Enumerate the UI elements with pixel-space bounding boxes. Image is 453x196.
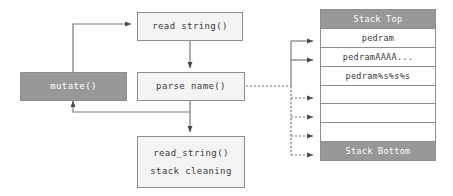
stack-row-2-label: pedramAAAA... [343, 52, 413, 62]
node-read-string-cleanup-label-secondary: stack cleaning [150, 166, 231, 176]
node-read-string-cleanup-label-primary: read_string() [153, 148, 229, 158]
node-mutate-label: mutate() [50, 81, 97, 91]
stack-row-6[interactable] [321, 123, 435, 142]
stack-row-3[interactable]: pedram%s%s%s [321, 67, 435, 86]
stack-row-4[interactable] [321, 86, 435, 105]
edge-mutate-to-read-string [73, 24, 131, 72]
stack-row-5[interactable] [321, 104, 435, 123]
stack-row-stack-top[interactable]: Stack Top [321, 10, 435, 29]
edge-parse-name-to-mutate-feedback [73, 101, 190, 112]
node-mutate[interactable]: mutate() [20, 72, 127, 101]
stack-row-1-label: pedram [362, 33, 395, 43]
stack-row-2[interactable]: pedramAAAA... [321, 48, 435, 67]
node-read-string-top[interactable]: read string() [137, 12, 243, 41]
node-read-string-top-label: read string() [152, 21, 228, 31]
node-read-string-cleanup[interactable]: read_string() stack cleaning [137, 136, 245, 188]
stack-row-stack-bottom-label: Stack Bottom [345, 146, 410, 156]
stack-row-3-label: pedram%s%s%s [345, 71, 410, 81]
stack-row-stack-bottom[interactable]: Stack Bottom [321, 142, 435, 160]
node-parse-name-label: parse name() [156, 81, 226, 91]
stack-panel: Stack Top pedram pedramAAAA... pedram%s%… [320, 9, 436, 161]
node-parse-name[interactable]: parse name() [137, 72, 245, 101]
stack-row-stack-top-label: Stack Top [354, 14, 403, 24]
stack-row-1[interactable]: pedram [321, 29, 435, 48]
flow-diagram: read string() mutate() parse name() read… [0, 0, 453, 196]
